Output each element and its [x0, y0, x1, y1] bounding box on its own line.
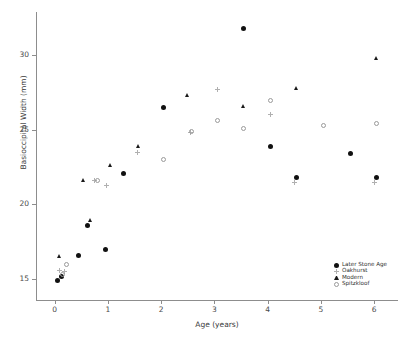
data-point	[268, 98, 273, 103]
chart-legend: Later Stone AgeOakhurstModernSpitzkloof	[333, 261, 387, 287]
data-point	[85, 223, 90, 228]
data-point	[241, 104, 245, 108]
data-point	[135, 150, 140, 155]
x-tick-label: 4	[259, 306, 277, 314]
x-axis-title: Age (years)	[36, 320, 398, 329]
scatter-plot-figure: 15202530 0123456 Basioccipital Width (mm…	[0, 0, 408, 338]
data-point	[103, 247, 108, 252]
x-tick-mark	[374, 300, 375, 304]
data-point	[108, 163, 112, 167]
x-tick-label: 5	[312, 306, 330, 314]
x-tick-mark	[214, 300, 215, 304]
x-tick-label: 1	[99, 306, 117, 314]
x-tick-label: 3	[205, 306, 223, 314]
legend-item[interactable]: Spitzkloof	[333, 280, 387, 286]
data-point	[215, 87, 220, 92]
x-tick-mark	[55, 300, 56, 304]
x-tick-mark	[321, 300, 322, 304]
x-axis-line	[36, 300, 398, 301]
data-point	[88, 218, 92, 222]
data-point	[374, 56, 378, 60]
data-point	[185, 93, 189, 97]
legend-label: Spitzkloof	[342, 280, 369, 286]
data-point	[57, 254, 61, 258]
x-tick-mark	[108, 300, 109, 304]
x-tick-mark	[268, 300, 269, 304]
x-tick-label: 6	[365, 306, 383, 314]
data-point	[55, 278, 60, 283]
data-point	[95, 178, 100, 183]
data-point	[241, 26, 246, 31]
x-tick-mark	[161, 300, 162, 304]
data-point	[81, 178, 85, 182]
y-axis-title: Basioccipital Width (mm)	[19, 53, 28, 193]
plot-area	[36, 12, 398, 300]
x-tick-label: 0	[46, 306, 64, 314]
data-point	[136, 144, 140, 148]
data-point	[321, 123, 326, 128]
data-point	[104, 183, 109, 188]
data-point	[241, 126, 246, 131]
data-point	[76, 253, 81, 258]
legend-marker-icon	[334, 282, 339, 287]
y-tick-label: 20	[19, 200, 29, 208]
data-point	[64, 262, 69, 267]
x-tick-label: 2	[152, 306, 170, 314]
data-point	[292, 180, 297, 185]
data-point	[372, 180, 377, 185]
data-point	[348, 151, 353, 156]
y-tick-label: 15	[19, 275, 29, 283]
data-point	[294, 86, 298, 90]
data-point	[268, 144, 273, 149]
data-point	[268, 112, 273, 117]
